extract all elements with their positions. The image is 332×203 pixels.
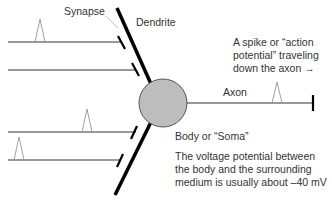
voltage-caption: The voltage potential between the body a… — [175, 150, 327, 189]
voltage-caption-line-1: The voltage potential between — [175, 150, 327, 163]
spike-input-4 — [14, 137, 24, 160]
spike-caption-line-3: down the axon → — [233, 62, 319, 75]
spike-caption: A spike or “action potential” traveling … — [233, 36, 319, 75]
soma-label: Body or “Soma” — [175, 130, 249, 142]
synapse-label: Synapse — [64, 5, 105, 17]
synapse-pointer — [106, 16, 118, 28]
spike-input-1 — [35, 19, 45, 42]
dendrite-label: Dendrite — [136, 16, 176, 28]
spike-caption-line-1: A spike or “action — [233, 36, 319, 49]
spike-caption-line-2: potential” traveling — [233, 49, 319, 62]
voltage-caption-line-3: medium is usually about –40 mV — [175, 176, 327, 189]
axon-label: Axon — [223, 86, 247, 98]
spike-input-3 — [82, 109, 92, 132]
soma-circle — [139, 79, 187, 127]
voltage-caption-line-2: the body and the surrounding — [175, 163, 327, 176]
spike-axon — [272, 82, 282, 103]
